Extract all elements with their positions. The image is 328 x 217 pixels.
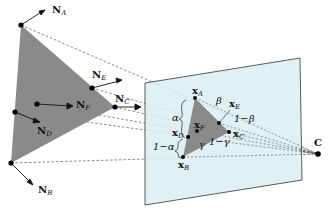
world-triangle: [11, 25, 115, 163]
label-ND: ND: [37, 126, 52, 138]
label-NB: NB: [38, 185, 52, 197]
label-xB: xB: [178, 160, 189, 172]
label-xF: xF: [194, 120, 205, 132]
label-gamma: γ: [199, 140, 205, 150]
label-xE: xE: [229, 99, 240, 111]
label-xD: xD: [172, 128, 184, 140]
label-alpha: α: [172, 113, 179, 123]
label-xA: xA: [192, 86, 203, 98]
label-xC: xC: [233, 129, 244, 141]
label-camera-C: C: [314, 138, 322, 148]
label-one-minus-beta: 1−β: [234, 114, 255, 124]
label-NE: NE: [92, 70, 106, 82]
label-NF: NF: [76, 100, 90, 112]
label-NA: NA: [52, 5, 66, 17]
label-beta: β: [216, 96, 222, 106]
label-one-minus-gamma: 1−γ: [209, 137, 230, 147]
label-NC: NC: [115, 94, 130, 106]
label-one-minus-alpha: 1−α: [153, 142, 175, 152]
